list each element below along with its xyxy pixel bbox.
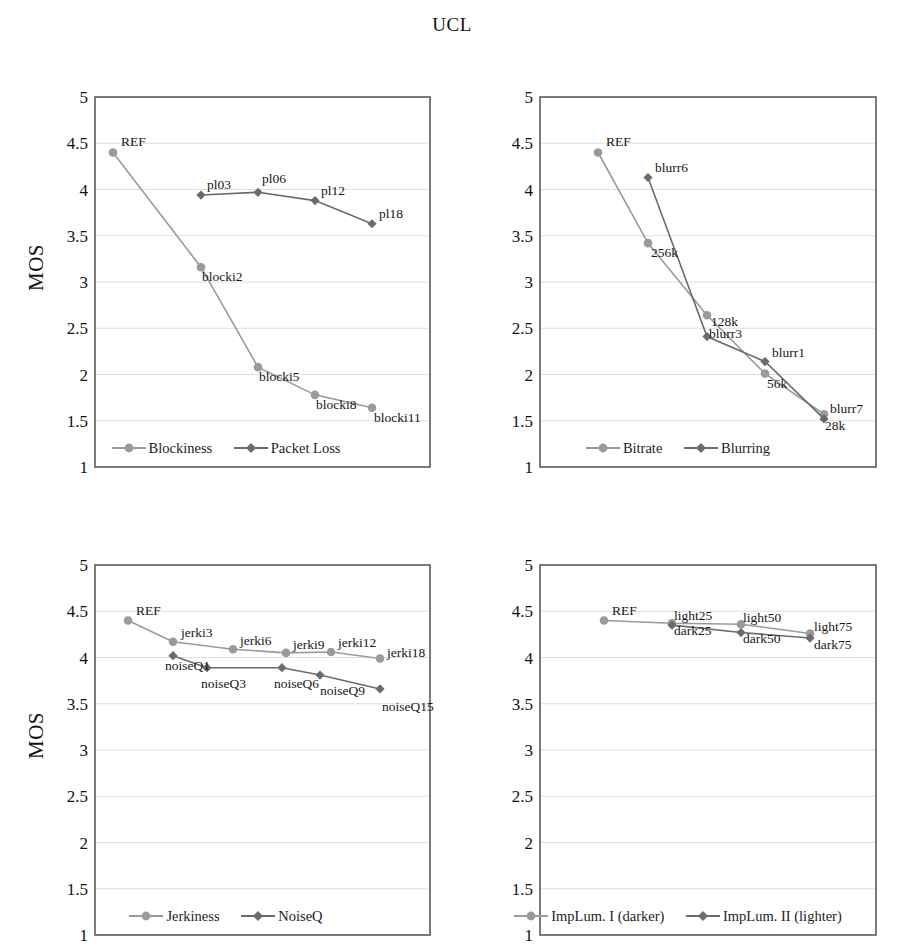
y-tick-labels-bottom-right: 5 4.5 4 3.5 3 2.5 2 1.5 1 [512, 556, 534, 945]
figure-title: UCL [0, 14, 904, 36]
data-point-label: light25 [674, 608, 713, 623]
series-line-blurring [648, 177, 824, 418]
svg-text:2: 2 [525, 834, 534, 853]
data-point-label: blurr6 [655, 160, 688, 175]
data-point-marker [594, 148, 603, 157]
series-line-bitrate [598, 153, 824, 415]
svg-text:2.5: 2.5 [512, 319, 533, 338]
data-point-label: 56k [767, 376, 788, 391]
data-point-label: 256k [651, 245, 678, 260]
data-point-label: REF [612, 603, 637, 618]
svg-text:1.5: 1.5 [512, 412, 533, 431]
svg-text:4: 4 [525, 649, 534, 668]
legend-marker-diamond [686, 910, 720, 922]
data-point-marker [600, 616, 609, 625]
legend-label-implum-1: ImpLum. I (darker) [551, 908, 664, 924]
legend-entry-implum-2: ImpLum. II (lighter) [686, 907, 842, 925]
plot-area-top-right: 5 4.5 4 3.5 3 2.5 2 1.5 1 REF256k128k56k… [0, 40, 452, 480]
data-point-label: blurr3 [709, 326, 742, 341]
data-point-marker [703, 311, 712, 320]
svg-text:1.5: 1.5 [512, 880, 533, 899]
chart-panel-top-right: 5 4.5 4 3.5 3 2.5 2 1.5 1 REF256k128k56k… [452, 40, 904, 480]
data-point-label: dark50 [743, 631, 781, 646]
svg-text:1: 1 [525, 458, 534, 477]
data-point-label: dark75 [814, 637, 852, 652]
data-point-label: dark25 [674, 623, 712, 638]
data-point-label: light50 [743, 610, 782, 625]
data-point-label: blurr7 [830, 401, 863, 416]
data-point-label: light75 [814, 619, 853, 634]
plot-area-bottom-right: 5 4.5 4 3.5 3 2.5 2 1.5 1 REFlight25ligh… [0, 508, 452, 948]
legend-entry-bitrate: Bitrate [586, 439, 662, 457]
svg-text:1: 1 [525, 926, 534, 945]
svg-text:2.5: 2.5 [512, 787, 533, 806]
svg-text:3: 3 [525, 273, 534, 292]
data-point-label: REF [606, 134, 631, 149]
y-tick-labels-top-right: 5 4.5 4 3.5 3 2.5 2 1.5 1 [512, 88, 534, 477]
svg-text:2: 2 [525, 366, 534, 385]
legend-top-right: Bitrate Blurring [452, 438, 904, 457]
legend-label-blurring: Blurring [721, 440, 770, 456]
legend-marker-diamond [684, 442, 718, 454]
data-point-label: blurr1 [772, 345, 805, 360]
legend-label-implum-2: ImpLum. II (lighter) [723, 908, 842, 924]
legend-entry-blurring: Blurring [684, 439, 770, 457]
legend-bottom-right: ImpLum. I (darker) ImpLum. II (lighter) [452, 906, 904, 925]
svg-text:5: 5 [525, 88, 534, 107]
gridlines-top-right [540, 143, 876, 421]
svg-text:3: 3 [525, 741, 534, 760]
svg-text:4: 4 [525, 181, 534, 200]
chart-panel-bottom-right: MOS 5 4.5 4 3.5 3 2.5 2 1.5 1 REFlight25… [452, 508, 904, 948]
legend-marker-circle [514, 910, 548, 922]
svg-text:4.5: 4.5 [512, 602, 533, 621]
data-point-label: 28k [825, 418, 846, 433]
gridlines-bottom-right [540, 611, 876, 889]
svg-text:3.5: 3.5 [512, 695, 533, 714]
legend-entry-implum-1: ImpLum. I (darker) [514, 907, 664, 925]
svg-text:4.5: 4.5 [512, 134, 533, 153]
svg-text:3.5: 3.5 [512, 227, 533, 246]
legend-marker-circle [586, 442, 620, 454]
point-labels-bottom-right: REFlight25light50light75dark25dark50dark… [612, 603, 853, 653]
svg-text:5: 5 [525, 556, 534, 575]
data-point-marker [643, 173, 652, 182]
legend-label-bitrate: Bitrate [623, 440, 662, 456]
